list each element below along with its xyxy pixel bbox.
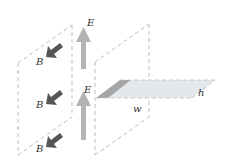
label-height: h <box>198 87 204 98</box>
b-arrow-top <box>46 43 63 58</box>
label-b-top: B <box>35 56 43 67</box>
label-e-bottom: E <box>83 84 92 95</box>
label-b-bottom: B <box>35 143 43 154</box>
diagram-svg: E E B B B w h <box>0 0 227 165</box>
label-width: w <box>133 103 142 114</box>
e-arrow-bottom <box>76 91 91 140</box>
label-e-top: E <box>86 17 95 28</box>
b-arrow-middle <box>46 90 63 105</box>
left-plane <box>18 25 72 155</box>
label-b-middle: B <box>35 99 43 110</box>
em-wave-diagram: E E B B B w h <box>0 0 227 165</box>
b-arrow-bottom <box>46 133 63 148</box>
e-arrow-top <box>76 27 91 69</box>
